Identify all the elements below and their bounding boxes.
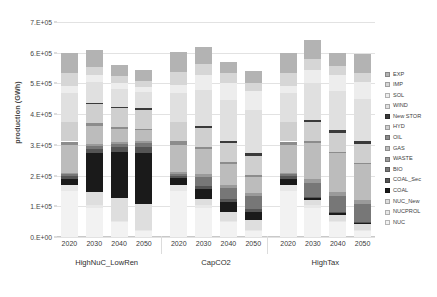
- bar-segment[interactable]: [220, 199, 237, 202]
- bar-segment[interactable]: [304, 141, 321, 143]
- bar-segment[interactable]: [329, 53, 346, 66]
- bar-segment[interactable]: [135, 81, 152, 87]
- bar-segment[interactable]: [329, 130, 346, 132]
- bar-segment[interactable]: [170, 72, 187, 85]
- bar-segment[interactable]: [354, 222, 371, 223]
- bar-segment[interactable]: [61, 185, 78, 191]
- bar-segment[interactable]: [86, 144, 103, 146]
- bar-segment[interactable]: [220, 222, 237, 237]
- bar-segment[interactable]: [220, 100, 237, 141]
- bar-segment[interactable]: [195, 128, 212, 147]
- bar-segment[interactable]: [245, 156, 262, 175]
- bar-segment[interactable]: [61, 145, 78, 173]
- bar-segment[interactable]: [195, 186, 212, 189]
- bar-segment[interactable]: [170, 93, 187, 122]
- bar-segment[interactable]: [220, 202, 237, 211]
- bar-segment[interactable]: [170, 176, 187, 178]
- bar-segment[interactable]: [220, 185, 237, 188]
- bar[interactable]: [354, 54, 371, 237]
- bar-segment[interactable]: [220, 62, 237, 73]
- bar-segment[interactable]: [329, 91, 346, 130]
- bar-segment[interactable]: [329, 213, 346, 215]
- bar-segment[interactable]: [61, 142, 78, 146]
- bar-segment[interactable]: [170, 141, 187, 145]
- bar-segment[interactable]: [135, 130, 152, 141]
- bar-segment[interactable]: [354, 99, 371, 140]
- bar-segment[interactable]: [111, 107, 128, 108]
- bar-segment[interactable]: [195, 199, 212, 205]
- bar-segment[interactable]: [329, 196, 346, 212]
- bar-segment[interactable]: [304, 59, 321, 69]
- bar-segment[interactable]: [304, 40, 321, 59]
- bar-segment[interactable]: [280, 73, 297, 86]
- bar-segment[interactable]: [170, 85, 187, 93]
- bar-segment[interactable]: [354, 200, 371, 204]
- bar-segment[interactable]: [111, 76, 128, 83]
- bar-segment[interactable]: [304, 208, 321, 237]
- bar-segment[interactable]: [111, 144, 128, 148]
- bar-segment[interactable]: [354, 54, 371, 73]
- bar-segment[interactable]: [195, 47, 212, 64]
- bar-segment[interactable]: [280, 142, 297, 146]
- bar-segment[interactable]: [86, 146, 103, 149]
- bar-segment[interactable]: [354, 82, 371, 100]
- bar-segment[interactable]: [61, 191, 78, 237]
- bar-segment[interactable]: [354, 144, 371, 163]
- bar-segment[interactable]: [111, 142, 128, 144]
- bar-segment[interactable]: [354, 204, 371, 221]
- bar-segment[interactable]: [329, 152, 346, 154]
- bar-segment[interactable]: [280, 191, 297, 237]
- bar[interactable]: [220, 62, 237, 237]
- bar-segment[interactable]: [195, 208, 212, 237]
- legend-item[interactable]: IMP: [385, 80, 437, 91]
- bar-segment[interactable]: [245, 153, 262, 155]
- bar-segment[interactable]: [135, 230, 152, 231]
- bar-segment[interactable]: [86, 67, 103, 76]
- bar-segment[interactable]: [304, 70, 321, 84]
- legend-item[interactable]: EXP: [385, 69, 437, 80]
- bar-segment[interactable]: [135, 147, 152, 153]
- bar-segment[interactable]: [111, 221, 128, 223]
- legend-item[interactable]: COAL: [385, 186, 437, 197]
- bar-segment[interactable]: [245, 175, 262, 177]
- bar-segment[interactable]: [195, 174, 212, 176]
- bar-segment[interactable]: [245, 110, 262, 153]
- bar-segment[interactable]: [354, 163, 371, 164]
- bar-segment[interactable]: [195, 75, 212, 90]
- bar-segment[interactable]: [135, 70, 152, 82]
- bar-segment[interactable]: [135, 108, 152, 109]
- bar-segment[interactable]: [245, 177, 262, 194]
- bar-segment[interactable]: [135, 87, 152, 93]
- bar-segment[interactable]: [86, 123, 103, 125]
- legend-item[interactable]: GAS: [385, 143, 437, 154]
- bar-segment[interactable]: [280, 174, 297, 176]
- bar-segment[interactable]: [280, 93, 297, 122]
- bar[interactable]: [86, 50, 103, 237]
- bar[interactable]: [195, 47, 212, 237]
- bar-segment[interactable]: [86, 103, 103, 104]
- bar-segment[interactable]: [61, 176, 78, 178]
- bar-segment[interactable]: [170, 52, 187, 72]
- bar-segment[interactable]: [280, 173, 297, 175]
- legend-item[interactable]: SOL: [385, 90, 437, 101]
- bar-segment[interactable]: [304, 122, 321, 141]
- bar-segment[interactable]: [195, 64, 212, 75]
- bar-segment[interactable]: [86, 126, 103, 144]
- bar-segment[interactable]: [195, 177, 212, 186]
- bar-segment[interactable]: [220, 212, 237, 221]
- bar-segment[interactable]: [304, 183, 321, 197]
- bar-segment[interactable]: [280, 185, 297, 191]
- bar-segment[interactable]: [354, 231, 371, 237]
- bar-segment[interactable]: [86, 104, 103, 123]
- bar-segment[interactable]: [135, 204, 152, 230]
- bar-segment[interactable]: [135, 110, 152, 129]
- bar-segment[interactable]: [245, 83, 262, 91]
- bar-segment[interactable]: [135, 92, 152, 108]
- bar-segment[interactable]: [354, 230, 371, 231]
- bar-segment[interactable]: [135, 141, 152, 143]
- legend-item[interactable]: NUC: [385, 217, 437, 228]
- bar-segment[interactable]: [195, 189, 212, 199]
- bar-segment[interactable]: [245, 196, 262, 209]
- bar-segment[interactable]: [220, 141, 237, 143]
- bar-segment[interactable]: [354, 224, 371, 231]
